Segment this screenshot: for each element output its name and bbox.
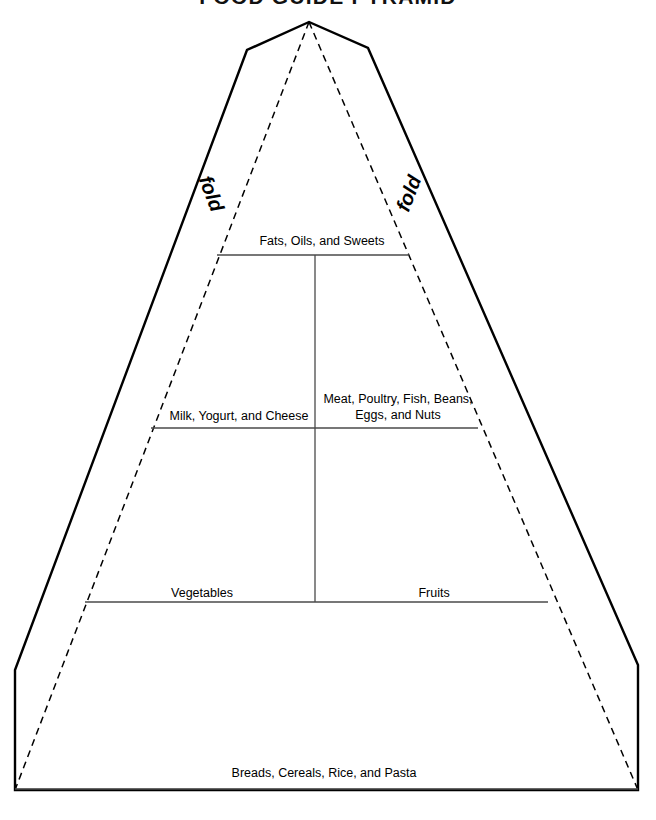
pyramid-outline (15, 22, 638, 790)
label-vegetables: Vegetables (171, 586, 233, 600)
food-guide-pyramid-page: FOOD GUIDE PYRAMID fold fold Fats, Oils,… (0, 0, 656, 820)
label-fats-oils-sweets: Fats, Oils, and Sweets (259, 234, 384, 248)
label-milk-yogurt-cheese: Milk, Yogurt, and Cheese (170, 409, 309, 423)
label-meat-line-2: Eggs, and Nuts (355, 408, 440, 422)
label-breads-cereals-rice-pasta: Breads, Cereals, Rice, and Pasta (232, 766, 417, 780)
pyramid-diagram: fold fold Fats, Oils, and Sweets Milk, Y… (0, 0, 656, 820)
label-meat-line-1: Meat, Poultry, Fish, Beans, (323, 392, 472, 406)
label-fruits: Fruits (418, 586, 449, 600)
